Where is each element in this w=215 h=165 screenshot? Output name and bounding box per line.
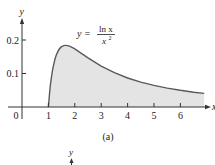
x-axis-label: x xyxy=(211,101,215,112)
function-label: y = ln x x 2 xyxy=(76,24,115,46)
function-label-lhs: y = xyxy=(76,28,91,39)
x-tick-label: 6 xyxy=(178,110,183,121)
x-tick-label: 4 xyxy=(125,110,130,121)
y-axis-arrow-icon xyxy=(20,18,24,24)
x-axis-arrow-icon xyxy=(205,105,211,109)
chart-figure: x y 0.2 0.1 0 1 2 3 4 5 6 y = ln x x 2 (… xyxy=(0,0,215,165)
function-label-denominator: x xyxy=(101,36,106,46)
x-tick-label: 2 xyxy=(72,110,77,121)
shaded-area xyxy=(48,45,204,107)
y-axis-label: y xyxy=(19,6,25,17)
x-tick-label: 1 xyxy=(46,110,51,121)
function-label-numerator: ln x xyxy=(99,24,113,34)
y-tick-label: 0.1 xyxy=(7,68,20,79)
x-tick-label: 5 xyxy=(152,110,157,121)
x-tick-label: 0 xyxy=(14,110,19,121)
x-tick-label: 3 xyxy=(99,110,104,121)
next-panel-y-label: y xyxy=(68,147,73,157)
panel-caption: (a) xyxy=(102,131,113,143)
y-tick-label: 0.2 xyxy=(7,35,20,46)
function-label-exponent: 2 xyxy=(109,35,112,41)
